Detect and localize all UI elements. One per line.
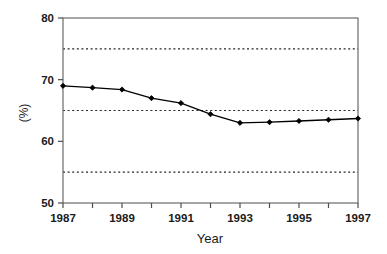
y-tick-label-70: 70 (41, 74, 54, 86)
x-tick-label-1991: 1991 (168, 212, 194, 224)
x-tick-label-1997: 1997 (345, 212, 371, 224)
y-tick-label-60: 60 (41, 135, 54, 147)
y-tick-label-50: 50 (41, 197, 54, 209)
x-tick-label-1987: 1987 (50, 212, 76, 224)
y-axis-title: (%) (17, 104, 31, 123)
line-chart: 50607080 198719891991199319951997 Year (… (0, 0, 387, 254)
x-tick-label-1993: 1993 (227, 212, 253, 224)
x-tick-label-1989: 1989 (109, 212, 135, 224)
chart-canvas: 50607080 198719891991199319951997 Year (… (0, 0, 387, 254)
x-axis-title: Year (197, 231, 224, 246)
x-tick-label-1995: 1995 (286, 212, 312, 224)
y-tick-label-80: 80 (41, 12, 54, 24)
